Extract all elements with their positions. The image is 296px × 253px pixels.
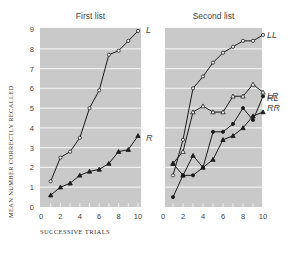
x-tick-label: 2 bbox=[181, 212, 185, 221]
chart-title: First list bbox=[76, 11, 106, 21]
x-tick-label: 8 bbox=[241, 212, 245, 221]
data-point bbox=[251, 39, 254, 42]
data-point bbox=[191, 87, 194, 90]
x-tick-label: 4 bbox=[201, 212, 205, 221]
data-point bbox=[211, 130, 214, 133]
y-axis-label: MEAN NUMBER CORRECTLY RECALLED bbox=[7, 85, 14, 218]
series-label: RR bbox=[267, 103, 280, 113]
data-point bbox=[231, 45, 234, 48]
x-tick-label: 4 bbox=[78, 212, 82, 221]
y-tick-label: 6 bbox=[30, 84, 34, 93]
y-tick-label: 4 bbox=[30, 124, 34, 133]
y-tick-label: 1 bbox=[30, 183, 34, 192]
data-point bbox=[49, 180, 52, 183]
data-point bbox=[201, 75, 204, 78]
chart-canvas: First list02468100123456789LRSecond list… bbox=[0, 0, 296, 253]
y-tick-label: 7 bbox=[30, 65, 34, 74]
data-point bbox=[181, 138, 184, 141]
x-tick-label: 6 bbox=[221, 212, 225, 221]
first-list-chart: First list02468100123456789LR bbox=[30, 11, 153, 221]
data-point bbox=[231, 122, 234, 125]
x-axis-label: SUCCESSIVE TRIALS bbox=[0, 228, 150, 235]
y-tick-label: 2 bbox=[30, 163, 34, 172]
y-tick-label: 5 bbox=[30, 104, 34, 113]
x-tick-label: 10 bbox=[259, 212, 267, 221]
y-tick-label: 8 bbox=[30, 45, 34, 54]
data-point bbox=[251, 118, 254, 121]
x-tick-label: 0 bbox=[161, 212, 165, 221]
data-point bbox=[69, 150, 72, 153]
data-point bbox=[136, 29, 139, 32]
plot-area bbox=[40, 28, 141, 207]
data-point bbox=[88, 107, 91, 110]
data-point bbox=[98, 89, 101, 92]
chart-title: Second list bbox=[193, 11, 235, 21]
x-tick-label: 6 bbox=[97, 212, 101, 221]
data-point bbox=[241, 107, 244, 110]
plot-area bbox=[165, 28, 262, 207]
y-axis-label-container: MEAN NUMBER CORRECTLY RECALLED bbox=[2, 40, 18, 220]
data-point bbox=[221, 130, 224, 133]
data-point bbox=[191, 174, 194, 177]
data-point bbox=[261, 33, 264, 36]
data-point bbox=[78, 136, 81, 139]
figure: First list02468100123456789LRSecond list… bbox=[0, 0, 296, 253]
data-point bbox=[107, 53, 110, 56]
data-point bbox=[211, 61, 214, 64]
x-tick-label: 2 bbox=[58, 212, 62, 221]
data-point bbox=[171, 174, 174, 177]
series-label: L bbox=[146, 25, 151, 35]
data-point bbox=[117, 49, 120, 52]
y-tick-label: 9 bbox=[30, 25, 34, 34]
second-list-chart: Second list0246810LLRLLRRR bbox=[161, 11, 281, 221]
x-tick-label: 8 bbox=[117, 212, 121, 221]
series-label: LL bbox=[267, 30, 277, 40]
x-tick-label: 10 bbox=[134, 212, 142, 221]
y-tick-label: 0 bbox=[30, 203, 34, 212]
y-tick-label: 3 bbox=[30, 144, 34, 153]
data-point bbox=[171, 196, 174, 199]
data-point bbox=[221, 51, 224, 54]
data-point bbox=[241, 39, 244, 42]
data-point bbox=[127, 39, 130, 42]
series-label: LR bbox=[267, 91, 279, 101]
data-point bbox=[59, 156, 62, 159]
x-tick-label: 0 bbox=[39, 212, 43, 221]
data-point bbox=[261, 95, 264, 98]
series-label: R bbox=[146, 133, 153, 143]
